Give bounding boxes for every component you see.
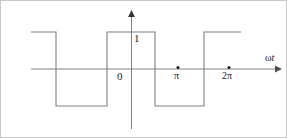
x-tick-label-two-pi: 2π	[222, 71, 232, 81]
x-tick-label-pi: π	[174, 71, 179, 81]
y-axis-arrowhead	[128, 10, 135, 17]
x-axis	[31, 66, 282, 73]
square-wave-figure: 1 0 π 2π ωt	[0, 0, 287, 138]
amplitude-label-one: 1	[134, 33, 140, 44]
omega-symbol: ω	[265, 52, 272, 63]
origin-label-zero: 0	[117, 71, 123, 82]
x-axis-arrowhead	[275, 66, 282, 73]
tick-dot-pi	[177, 66, 180, 69]
t-symbol: t	[272, 52, 275, 63]
tick-dot-two-pi	[228, 66, 231, 69]
x-axis-title-omega-t: ωt	[265, 53, 274, 63]
plot-canvas	[1, 1, 287, 138]
